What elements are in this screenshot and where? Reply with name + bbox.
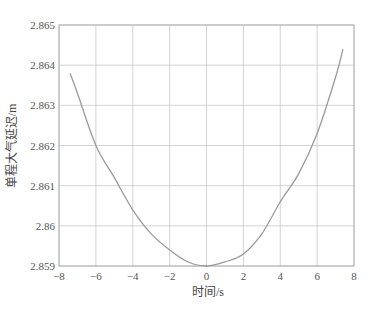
x-tick-label: 6 [314, 270, 320, 282]
x-axis-ticks: −8−6−4−202468 [53, 270, 357, 282]
line-chart: −8−6−4−202468 2.8592.862.8612.8622.8632.… [0, 0, 372, 309]
y-tick-label: 2.861 [30, 180, 55, 192]
x-tick-label: −4 [127, 270, 139, 282]
y-tick-label: 2.862 [30, 140, 55, 152]
x-tick-label: −6 [90, 270, 102, 282]
y-tick-label: 2.86 [36, 220, 56, 232]
grid-lines [59, 25, 354, 266]
y-axis-label: 单程大气延迟/m [4, 103, 19, 188]
x-tick-label: 2 [241, 270, 247, 282]
y-tick-label: 2.863 [30, 99, 55, 111]
y-tick-label: 2.859 [30, 260, 55, 272]
x-tick-label: 4 [278, 270, 284, 282]
x-tick-label: 0 [204, 270, 210, 282]
y-axis-ticks: 2.8592.862.8612.8622.8632.8642.865 [30, 19, 55, 272]
x-tick-label: 8 [351, 270, 357, 282]
y-tick-label: 2.864 [30, 59, 55, 71]
x-axis-label: 时间/s [192, 285, 224, 299]
y-tick-label: 2.865 [30, 19, 55, 31]
x-tick-label: −2 [164, 270, 176, 282]
